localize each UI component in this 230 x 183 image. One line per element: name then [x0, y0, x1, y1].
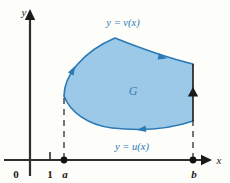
lower-curve-label: y = u(x): [114, 141, 149, 153]
point-dot-a: [61, 157, 68, 164]
point-dot-b: [190, 157, 197, 164]
upper-curve-label: y = v(x): [105, 17, 140, 29]
origin-label: 0: [13, 168, 19, 180]
tick-label-1: 1: [47, 168, 53, 180]
point-label-b: b: [191, 168, 197, 180]
x-axis-arrowhead-icon: [201, 155, 212, 165]
region-label-g: G: [129, 84, 138, 98]
figure-container: y x 0 1 a b y = v(x) y = u(x) G: [0, 0, 230, 183]
point-label-a: a: [62, 168, 68, 180]
x-axis-label: x: [216, 154, 222, 166]
y-axis-label: y: [21, 6, 27, 18]
region-diagram: y x 0 1 a b y = v(x) y = u(x) G: [0, 0, 230, 183]
